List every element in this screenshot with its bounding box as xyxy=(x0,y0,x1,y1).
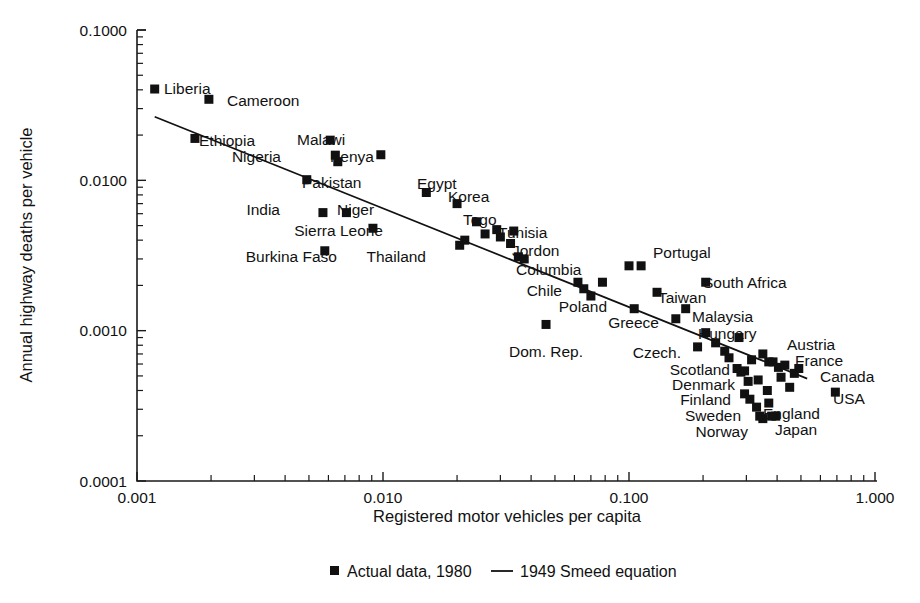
point-label: Chile xyxy=(527,282,562,299)
point-label: Malaysia xyxy=(692,308,754,325)
point-label: Norway xyxy=(695,423,748,440)
point-label: Korea xyxy=(448,188,490,205)
point-label: Hungary xyxy=(698,325,757,342)
point-label: Sweden xyxy=(685,407,741,424)
point-label: Niger xyxy=(337,201,374,218)
point-label: Greece xyxy=(608,314,659,331)
x-axis-title: Registered motor vehicles per capita xyxy=(373,507,642,525)
svg-text:0.001: 0.001 xyxy=(118,489,157,506)
point-label: Czech. xyxy=(633,344,681,361)
point-label: Kenya xyxy=(330,148,374,165)
point-label: Dom. Rep. xyxy=(509,343,583,360)
point-label: England xyxy=(763,405,820,422)
point-label: Canada xyxy=(820,368,875,385)
point-label: Taiwan xyxy=(658,289,706,306)
svg-text:1.000: 1.000 xyxy=(856,489,895,506)
x-axis-tick-labels: 0.0010.0100.1001.000 xyxy=(118,489,895,506)
point-label: USA xyxy=(833,390,866,407)
point-label: France xyxy=(795,352,843,369)
legend-marker-square xyxy=(330,566,339,575)
svg-text:0.0100: 0.0100 xyxy=(80,172,128,189)
point-label: Pakistan xyxy=(302,174,361,191)
point-label: Togo xyxy=(463,211,497,228)
point-label: Nigeria xyxy=(232,148,281,165)
svg-text:0.1000: 0.1000 xyxy=(80,22,128,39)
legend: Actual data, 1980 1949 Smeed equation xyxy=(330,563,677,580)
point-label: Malawi xyxy=(297,131,345,148)
figure-container: 0.00010.00100.01000.1000 0.0010.0100.100… xyxy=(0,0,920,603)
svg-text:0.010: 0.010 xyxy=(364,489,403,506)
point-label: Jordon xyxy=(512,242,559,259)
scatter-plot: 0.00010.00100.01000.1000 0.0010.0100.100… xyxy=(0,0,920,603)
point-label: Tunisia xyxy=(498,224,548,241)
point-label: Japan xyxy=(775,421,817,438)
point-label: Columbia xyxy=(516,261,582,278)
svg-text:0.0001: 0.0001 xyxy=(80,473,127,490)
point-label: Liberia xyxy=(164,80,211,97)
y-axis-title: Annual highway deaths per vehicle xyxy=(17,127,35,382)
y-axis-tick-labels: 0.00010.00100.01000.1000 xyxy=(80,22,128,490)
point-label: Finland xyxy=(680,391,731,408)
svg-text:0.100: 0.100 xyxy=(610,489,649,506)
svg-text:0.0010: 0.0010 xyxy=(80,322,128,339)
x-axis-ticks xyxy=(137,472,875,481)
point-label: Sierra Leone xyxy=(294,222,383,239)
legend-label-smeed-equation: 1949 Smeed equation xyxy=(520,563,677,580)
point-label: Poland xyxy=(559,298,607,315)
y-axis-ticks xyxy=(137,30,146,481)
point-label: Cameroon xyxy=(227,92,299,109)
point-label: Ethiopia xyxy=(199,132,255,149)
point-label: Thailand xyxy=(367,248,426,265)
point-label: Austria xyxy=(787,336,836,353)
point-label: Burkina Faso xyxy=(246,248,337,265)
point-label: India xyxy=(246,201,280,218)
point-label: South Africa xyxy=(703,274,787,291)
legend-label-actual-data: Actual data, 1980 xyxy=(347,563,472,580)
point-label: Portugal xyxy=(653,244,711,261)
